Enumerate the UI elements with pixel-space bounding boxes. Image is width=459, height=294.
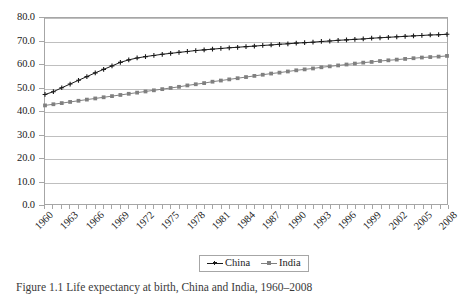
x-tick-mark	[339, 205, 340, 209]
x-tick-mark	[238, 205, 239, 209]
y-tick-label: 50.0	[17, 82, 35, 93]
data-point	[51, 102, 55, 106]
x-tick-mark	[78, 205, 79, 209]
legend-entry-china[interactable]: China	[207, 258, 250, 269]
x-tick-mark	[229, 205, 230, 209]
y-tick-label: 20.0	[17, 153, 35, 164]
x-tick-label: 1966	[84, 210, 106, 232]
legend-label: China	[225, 258, 250, 269]
x-tick-mark	[355, 205, 356, 209]
data-point	[252, 74, 256, 78]
y-tick-mark	[39, 158, 44, 159]
data-point	[185, 84, 189, 88]
data-point	[101, 67, 106, 72]
data-point	[210, 47, 215, 52]
chart-legend[interactable]: ChinaIndia	[199, 255, 309, 272]
data-point	[84, 74, 89, 79]
legend-marker-icon	[261, 259, 277, 268]
data-point	[386, 58, 390, 62]
data-point	[59, 85, 64, 90]
data-point	[378, 59, 382, 63]
y-tick-mark	[39, 182, 44, 183]
data-point	[244, 44, 249, 49]
data-point	[428, 33, 433, 38]
y-tick-label: 10.0	[17, 176, 35, 187]
legend-entry-india[interactable]: India	[261, 258, 301, 269]
x-tick-label: 1981	[210, 210, 232, 232]
x-tick-mark	[111, 205, 112, 209]
data-point	[135, 91, 139, 95]
data-point	[412, 56, 416, 60]
x-tick-mark	[440, 205, 441, 209]
data-point	[311, 67, 315, 71]
data-point	[286, 70, 290, 74]
x-tick-mark	[103, 205, 104, 209]
data-point	[219, 79, 223, 83]
x-tick-mark	[313, 205, 314, 209]
series-layer	[45, 18, 447, 204]
y-tick-mark	[39, 64, 44, 65]
data-point	[361, 37, 366, 42]
data-point	[85, 98, 89, 102]
x-tick-label: 1993	[311, 210, 333, 232]
x-tick-label: 2002	[387, 210, 409, 232]
y-tick-label: 30.0	[17, 129, 35, 140]
data-point	[319, 39, 324, 44]
data-point	[327, 39, 332, 44]
data-point	[151, 53, 156, 58]
series-india	[43, 54, 449, 107]
data-point	[76, 78, 81, 83]
x-tick-label: 1978	[185, 210, 207, 232]
data-point	[361, 61, 365, 65]
x-tick-mark	[414, 205, 415, 209]
data-point	[285, 41, 290, 46]
x-tick-mark	[86, 205, 87, 209]
x-tick-mark	[128, 205, 129, 209]
data-point	[403, 34, 408, 39]
y-tick-mark	[39, 205, 44, 206]
data-point	[260, 43, 265, 48]
data-point	[244, 75, 248, 79]
data-point	[102, 95, 106, 99]
data-point	[261, 73, 265, 77]
x-tick-mark	[254, 205, 255, 209]
x-tick-mark	[406, 205, 407, 209]
data-point	[177, 50, 182, 55]
data-point	[420, 56, 424, 60]
data-point	[269, 43, 274, 48]
x-tick-mark	[145, 205, 146, 209]
data-point	[60, 101, 64, 105]
y-tick-label: 60.0	[17, 59, 35, 70]
x-tick-mark	[288, 205, 289, 209]
data-point	[437, 55, 441, 59]
data-point	[411, 34, 416, 39]
data-point	[252, 44, 257, 49]
data-point	[311, 40, 316, 45]
data-point	[160, 52, 165, 57]
data-point	[353, 62, 357, 66]
series-line	[45, 34, 447, 94]
x-tick-label: 1984	[235, 210, 257, 232]
data-point	[43, 104, 47, 108]
data-point	[277, 42, 282, 47]
x-tick-mark	[212, 205, 213, 209]
y-tick-mark	[39, 88, 44, 89]
x-tick-mark	[246, 205, 247, 209]
data-point	[302, 40, 307, 45]
data-point	[193, 48, 198, 53]
data-point	[278, 71, 282, 75]
x-tick-label: 2005	[412, 210, 434, 232]
y-tick-label: 40.0	[17, 106, 35, 117]
data-point	[269, 72, 273, 76]
data-point	[236, 76, 240, 80]
figure-caption: Figure 1.1 Life expectancy at birth, Chi…	[16, 280, 312, 294]
x-tick-mark	[398, 205, 399, 209]
data-point	[403, 57, 407, 61]
data-point	[169, 86, 173, 90]
data-point	[419, 33, 424, 38]
data-point	[77, 99, 81, 103]
data-point	[126, 57, 131, 62]
data-point	[395, 58, 399, 62]
x-tick-mark	[305, 205, 306, 209]
